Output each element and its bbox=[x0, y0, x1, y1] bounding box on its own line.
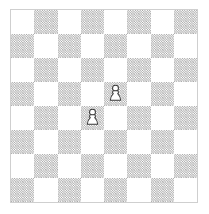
board-square-g3[interactable] bbox=[151, 130, 174, 154]
board-square-h3[interactable] bbox=[174, 130, 197, 154]
board-square-g1[interactable] bbox=[151, 178, 174, 202]
board-square-f3[interactable] bbox=[127, 130, 150, 154]
board-square-e3[interactable] bbox=[104, 130, 127, 154]
board-square-c6[interactable] bbox=[58, 58, 81, 82]
board-square-c7[interactable] bbox=[58, 34, 81, 58]
board-square-d8[interactable] bbox=[81, 10, 104, 34]
board-square-h2[interactable] bbox=[174, 154, 197, 178]
board-square-c8[interactable] bbox=[58, 10, 81, 34]
chess-board-grid[interactable] bbox=[11, 10, 197, 202]
board-square-b4[interactable] bbox=[34, 106, 57, 130]
board-square-f2[interactable] bbox=[127, 154, 150, 178]
board-square-e7[interactable] bbox=[104, 34, 127, 58]
board-square-c4[interactable] bbox=[58, 106, 81, 130]
board-square-b3[interactable] bbox=[34, 130, 57, 154]
board-square-c1[interactable] bbox=[58, 178, 81, 202]
board-square-h7[interactable] bbox=[174, 34, 197, 58]
board-square-g4[interactable] bbox=[151, 106, 174, 130]
board-square-a5[interactable] bbox=[11, 82, 34, 106]
board-square-a6[interactable] bbox=[11, 58, 34, 82]
board-square-d6[interactable] bbox=[81, 58, 104, 82]
board-square-b8[interactable] bbox=[34, 10, 57, 34]
board-square-h1[interactable] bbox=[174, 178, 197, 202]
board-square-d7[interactable] bbox=[81, 34, 104, 58]
board-square-c2[interactable] bbox=[58, 154, 81, 178]
board-square-e2[interactable] bbox=[104, 154, 127, 178]
board-square-e4[interactable] bbox=[104, 106, 127, 130]
board-square-f5[interactable] bbox=[127, 82, 150, 106]
board-square-h4[interactable] bbox=[174, 106, 197, 130]
board-square-f4[interactable] bbox=[127, 106, 150, 130]
board-square-c5[interactable] bbox=[58, 82, 81, 106]
board-square-e6[interactable] bbox=[104, 58, 127, 82]
board-square-g8[interactable] bbox=[151, 10, 174, 34]
board-square-a3[interactable] bbox=[11, 130, 34, 154]
board-square-a8[interactable] bbox=[11, 10, 34, 34]
board-square-d3[interactable] bbox=[81, 130, 104, 154]
board-square-f6[interactable] bbox=[127, 58, 150, 82]
chess-board-container bbox=[10, 9, 198, 203]
board-square-h8[interactable] bbox=[174, 10, 197, 34]
board-square-a4[interactable] bbox=[11, 106, 34, 130]
board-square-a7[interactable] bbox=[11, 34, 34, 58]
board-square-d1[interactable] bbox=[81, 178, 104, 202]
board-square-h6[interactable] bbox=[174, 58, 197, 82]
board-square-f8[interactable] bbox=[127, 10, 150, 34]
board-square-f7[interactable] bbox=[127, 34, 150, 58]
board-square-b6[interactable] bbox=[34, 58, 57, 82]
board-square-h5[interactable] bbox=[174, 82, 197, 106]
white-pawn-icon[interactable] bbox=[104, 82, 127, 106]
board-square-b7[interactable] bbox=[34, 34, 57, 58]
board-square-a2[interactable] bbox=[11, 154, 34, 178]
board-square-c3[interactable] bbox=[58, 130, 81, 154]
board-square-e8[interactable] bbox=[104, 10, 127, 34]
board-square-g7[interactable] bbox=[151, 34, 174, 58]
white-pawn-icon[interactable] bbox=[81, 106, 104, 130]
board-square-b2[interactable] bbox=[34, 154, 57, 178]
board-square-a1[interactable] bbox=[11, 178, 34, 202]
board-square-d2[interactable] bbox=[81, 154, 104, 178]
board-square-g5[interactable] bbox=[151, 82, 174, 106]
board-square-b5[interactable] bbox=[34, 82, 57, 106]
board-square-f1[interactable] bbox=[127, 178, 150, 202]
board-square-b1[interactable] bbox=[34, 178, 57, 202]
board-square-g2[interactable] bbox=[151, 154, 174, 178]
board-square-g6[interactable] bbox=[151, 58, 174, 82]
board-square-e1[interactable] bbox=[104, 178, 127, 202]
board-square-d5[interactable] bbox=[81, 82, 104, 106]
